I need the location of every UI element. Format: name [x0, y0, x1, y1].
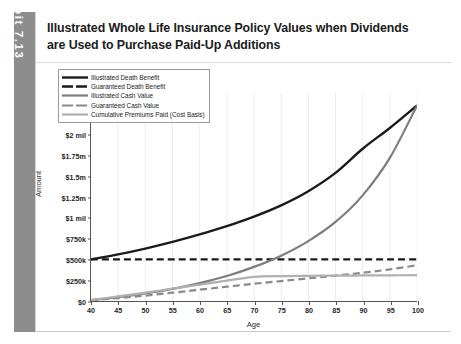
legend-label: Cumulative Premiums Paid (Cost Basis): [91, 111, 205, 118]
x-axis-tick-label: 60: [196, 306, 204, 315]
y-axis-tick-label: $250k: [66, 277, 86, 286]
x-axis-tick: [391, 301, 392, 305]
legend-label: Guaranteed Death Benefit: [91, 83, 165, 90]
x-axis-tick: [255, 301, 256, 305]
legend-label: Illustrated Cash Value: [91, 92, 153, 99]
x-axis-tick: [146, 301, 147, 305]
y-axis-tick: [88, 134, 92, 135]
y-axis-tick-label: $500k: [66, 256, 86, 265]
x-axis-tick-label: 90: [360, 306, 368, 315]
x-axis-tick: [118, 301, 119, 305]
x-axis-tick-label: 50: [142, 306, 150, 315]
x-axis-tick-label: 75: [278, 306, 286, 315]
y-axis-tick-label: $1.5m: [66, 172, 86, 181]
x-axis-tick: [173, 301, 174, 305]
legend-item: Guaranteed Death Benefit: [62, 82, 205, 91]
legend-item: Illustrated Death Benefit: [62, 73, 205, 82]
legend-swatch-icon: [62, 101, 88, 110]
x-axis-tick: [418, 301, 419, 305]
y-axis-tick: [88, 176, 92, 177]
x-axis-tick: [227, 301, 228, 305]
x-axis-tick: [200, 301, 201, 305]
y-axis-tick-label: $1 mil: [66, 214, 86, 223]
x-axis-tick-label: 40: [87, 306, 95, 315]
legend-swatch-icon: [62, 82, 88, 91]
y-axis-tick-label: $2 mil: [66, 130, 86, 139]
legend-swatch-icon: [62, 91, 88, 100]
figure-title-line-1: Illustrated Whole Life Insurance Policy …: [47, 20, 445, 37]
legend-item: Illustrated Cash Value: [62, 91, 205, 100]
x-axis-tick: [364, 301, 365, 305]
figure-title: Illustrated Whole Life Insurance Policy …: [47, 20, 445, 53]
x-axis-title: Age: [90, 320, 417, 329]
title-divider: [36, 62, 451, 63]
exhibit-label: Exhibit 7.13: [14, 12, 25, 60]
x-axis-tick-label: 100: [412, 306, 424, 315]
exhibit-figure: Exhibit 7.13 Illustrated Whole Life Insu…: [0, 0, 461, 344]
y-axis-title: Amount: [34, 171, 43, 197]
y-axis-tick-label: $750k: [66, 235, 86, 244]
figure-card: Illustrated Whole Life Insurance Policy …: [35, 12, 450, 332]
y-axis-tick-label: $0: [78, 298, 86, 307]
y-axis-tick: [88, 218, 92, 219]
x-axis-tick-label: 55: [169, 306, 177, 315]
y-axis-tick: [88, 155, 92, 156]
legend-swatch-icon: [62, 73, 88, 82]
x-axis-tick: [91, 301, 92, 305]
x-axis-tick: [336, 301, 337, 305]
x-axis-tick-label: 45: [114, 306, 122, 315]
chart-legend: Illustrated Death BenefitGuaranteed Deat…: [58, 69, 210, 123]
y-axis-tick-label: $1.25m: [62, 193, 86, 202]
x-axis-tick: [309, 301, 310, 305]
x-axis-tick-label: 85: [332, 306, 340, 315]
chart-canvas: Amount Age $0$250k$500k$750k$1 mil$1.25m…: [36, 64, 451, 332]
legend-item: Cumulative Premiums Paid (Cost Basis): [62, 110, 205, 119]
plot-area: $0$250k$500k$750k$1 mil$1.25m$1.5m$1.75m…: [90, 93, 417, 302]
y-axis-tick: [88, 281, 92, 282]
legend-swatch-icon: [62, 110, 88, 119]
y-axis-tick: [88, 197, 92, 198]
legend-label: Guaranteed Cash Value: [91, 102, 159, 109]
figure-title-line-2: are Used to Purchase Paid-Up Additions: [47, 37, 445, 54]
legend-item: Guaranteed Cash Value: [62, 101, 205, 110]
x-axis-tick-label: 70: [251, 306, 259, 315]
exhibit-tab: Exhibit 7.13: [14, 12, 35, 332]
x-axis-tick-label: 80: [305, 306, 313, 315]
y-axis-tick-label: $1.75m: [62, 151, 86, 160]
legend-label: Illustrated Death Benefit: [91, 74, 159, 81]
x-axis-tick-label: 95: [387, 306, 395, 315]
y-axis-tick: [88, 239, 92, 240]
y-axis-tick: [88, 260, 92, 261]
series-lines: [91, 93, 417, 301]
x-axis-tick: [282, 301, 283, 305]
x-axis-tick-label: 65: [223, 306, 231, 315]
